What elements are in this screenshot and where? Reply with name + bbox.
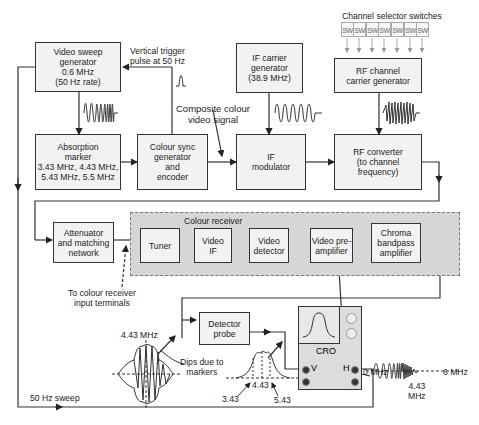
block-text: Video pre- xyxy=(312,236,352,246)
label-line: Dips due to xyxy=(180,357,223,367)
block-text: frequency) xyxy=(353,167,403,177)
rf-channel-carrier-generator-block: RF channel carrier generator xyxy=(334,58,422,93)
block-text: probe xyxy=(208,329,240,339)
cro-label: CRO xyxy=(316,346,336,356)
colour-sync-generator-block: Colour sync generator and encoder xyxy=(137,134,208,190)
sweep-50hz-label: 50 Hz sweep xyxy=(30,393,80,403)
h-label: H xyxy=(343,363,350,373)
channel-switch-7[interactable]: SW xyxy=(416,22,429,37)
ground-terminal-icon[interactable] xyxy=(302,378,310,386)
marker-343-label: 3.43 xyxy=(222,394,239,404)
if-carrier-generator-block: IF carrier generator (38.9 MHz) xyxy=(236,43,303,93)
channel-switch-4[interactable]: SW xyxy=(378,22,391,37)
composite-video-label: Composite colour video signal xyxy=(176,103,250,125)
block-text: 0.6 MHz xyxy=(53,67,102,77)
block-text: bandpass xyxy=(377,238,414,248)
label-line: Vertical trigger xyxy=(130,46,185,56)
block-text: generator xyxy=(248,63,291,73)
label-line: Composite colour xyxy=(176,103,250,114)
detector-probe-block: Detector probe xyxy=(199,312,250,345)
vertical-trigger-label: Vertical trigger pulse at 50 Hz xyxy=(130,46,185,66)
label-line: MHz xyxy=(408,391,426,401)
six-mhz-label: 6 MHz xyxy=(443,367,468,377)
block-text: Video sweep xyxy=(53,47,102,57)
block-text: marker xyxy=(38,152,119,162)
tuner-block: Tuner xyxy=(140,228,180,263)
label-line: To colour receiver xyxy=(68,288,136,298)
label-line: 4.43 xyxy=(408,381,426,391)
block-text: IF carrier xyxy=(248,53,291,63)
if-modulator-block: IF modulator xyxy=(236,134,306,190)
block-text: carrier generator xyxy=(346,76,410,86)
cro-screen xyxy=(299,307,340,344)
block-text: encoder xyxy=(150,172,195,182)
h-terminal-icon[interactable] xyxy=(351,366,359,374)
cro-trace-icon xyxy=(299,307,339,343)
chroma-443-label: 4.43 MHz xyxy=(408,381,426,401)
attenuator-block: Attenuator and matching network xyxy=(53,222,114,263)
block-text: amplifier xyxy=(377,248,414,258)
block-text: Colour sync xyxy=(150,142,195,152)
video-detector-block: Video detector xyxy=(249,228,289,263)
freq-443-label: 4.43 MHz xyxy=(121,330,158,340)
colour-receiver-label: Colour receiver xyxy=(184,216,242,226)
block-text: network xyxy=(58,248,110,258)
block-text: Detector xyxy=(208,319,240,329)
block-text: 5.43 MHz, 5.5 MHz xyxy=(38,172,119,182)
block-text: Attenuator xyxy=(58,228,110,238)
cro-oscilloscope: CRO V H xyxy=(298,306,362,390)
dips-label: Dips due to markers xyxy=(180,357,223,377)
input-terminals-label: To colour receiver input terminals xyxy=(68,288,136,308)
block-text: amplifier xyxy=(312,246,352,256)
block-text: Chroma xyxy=(377,228,414,238)
label-line: video signal xyxy=(176,114,250,125)
v-terminal-icon[interactable] xyxy=(302,366,310,374)
block-text: RF channel xyxy=(346,66,410,76)
label-line: markers xyxy=(180,367,223,377)
block-text: generator xyxy=(150,152,195,162)
block-text: Video xyxy=(253,236,284,246)
chroma-bandpass-amplifier-block: Chroma bandpass amplifier xyxy=(371,223,421,263)
zero-mhz-label: 0 MHz xyxy=(363,367,388,377)
video-preamplifier-block: Video pre- amplifier xyxy=(310,228,353,263)
block-text: Video xyxy=(202,236,224,246)
absorption-marker-block: Absorption marker 3.43 MHz, 4.43 MHz, 5.… xyxy=(35,134,121,190)
block-text: RF converter xyxy=(353,147,403,157)
block-text: (to channel xyxy=(353,157,403,167)
cro-knob-icon[interactable] xyxy=(346,313,357,324)
block-text: 3.43 MHz, 4.43 MHz, xyxy=(38,162,119,172)
marker-543-label: 5.43 xyxy=(274,395,291,405)
video-if-block: Video IF xyxy=(194,228,232,263)
rf-converter-block: RF converter (to channel frequency) xyxy=(334,134,422,190)
block-text: and matching xyxy=(58,238,110,248)
block-text: (38.9 MHz) xyxy=(248,73,291,83)
channel-switch-5[interactable]: SW xyxy=(391,22,404,37)
block-text: Absorption xyxy=(38,142,119,152)
block-text: IF xyxy=(202,246,224,256)
channel-selector-label: Channel selector switches xyxy=(342,11,442,21)
video-sweep-generator-block: Video sweep generator 0.6 MHz (50 Hz rat… xyxy=(35,42,121,92)
block-text: modulator xyxy=(252,162,290,172)
block-text: (50 Hz rate) xyxy=(53,77,102,87)
channel-switch-2[interactable]: SW xyxy=(353,22,366,37)
label-line: pulse at 50 Hz xyxy=(130,56,185,66)
ground-terminal-icon[interactable] xyxy=(351,378,359,386)
v-label: V xyxy=(311,363,317,373)
block-text: generator xyxy=(53,57,102,67)
marker-443-label: 4.43 xyxy=(252,380,269,390)
cro-knob-icon[interactable] xyxy=(346,328,357,339)
block-text: and xyxy=(150,162,195,172)
block-text: IF xyxy=(252,152,290,162)
label-line: input terminals xyxy=(68,298,136,308)
block-text: detector xyxy=(253,246,284,256)
block-text: Tuner xyxy=(149,241,171,251)
